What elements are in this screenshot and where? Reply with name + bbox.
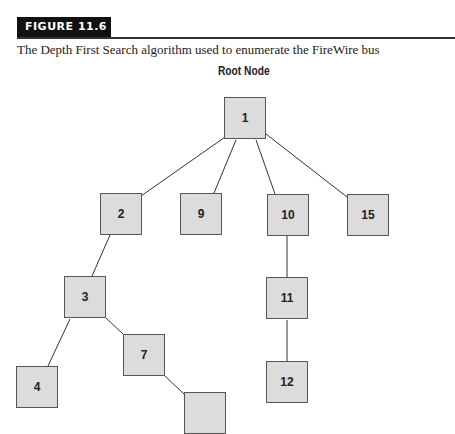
tree-node-12: 12 [266,361,308,403]
edge-1-9 [214,140,236,193]
tree-node-4: 4 [16,366,58,408]
tree-node-15: 15 [347,194,389,236]
tree-node-cutoff [184,392,226,434]
edge-1-15 [266,134,347,197]
edge-1-10 [256,140,275,194]
edge-3-7 [106,318,123,334]
edge-1-2 [141,135,228,196]
edge-7-child [165,376,184,394]
edge-2-3 [92,235,110,276]
tree-node-1: 1 [224,97,266,139]
tree-node-2: 2 [100,193,142,235]
tree-node-3: 3 [64,276,106,318]
tree-node-7: 7 [123,334,165,376]
tree-node-9: 9 [180,193,222,235]
tree-node-10: 10 [267,194,309,236]
edge-3-4 [48,319,70,366]
tree-node-11: 11 [266,277,308,319]
